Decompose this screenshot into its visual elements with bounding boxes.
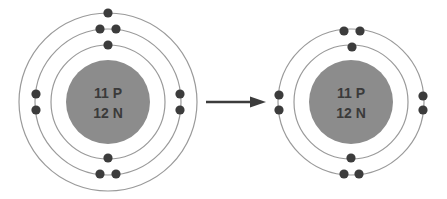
- electron: [103, 40, 112, 49]
- electron: [95, 169, 104, 178]
- sodium-atom: 11 P12 N: [19, 8, 197, 191]
- electron: [103, 8, 112, 17]
- electron: [111, 24, 120, 33]
- electron: [418, 105, 427, 114]
- nucleus: [309, 60, 393, 144]
- electron: [175, 89, 184, 98]
- atom-diagram: 11 P12 N 11 P12 N: [0, 0, 447, 199]
- electron: [339, 26, 348, 35]
- electron: [354, 169, 363, 178]
- nucleus: [66, 60, 150, 144]
- electron: [31, 89, 40, 98]
- electron: [418, 91, 427, 100]
- neutron-count-label: 12 N: [93, 105, 123, 121]
- electron: [103, 153, 112, 162]
- sodium-ion: 11 P12 N: [274, 26, 427, 178]
- electron: [31, 105, 40, 114]
- neutron-count-label: 12 N: [336, 105, 366, 121]
- electron: [274, 90, 283, 99]
- electron: [346, 153, 355, 162]
- electron: [274, 105, 283, 114]
- proton-count-label: 11 P: [337, 85, 365, 101]
- proton-count-label: 11 P: [94, 85, 122, 101]
- electron: [347, 42, 356, 51]
- electron: [339, 169, 348, 178]
- arrow-head-icon: [250, 97, 266, 108]
- electron: [111, 169, 120, 178]
- electron: [175, 105, 184, 114]
- electron: [355, 26, 364, 35]
- reaction-arrow: [206, 97, 266, 108]
- electron: [95, 24, 104, 33]
